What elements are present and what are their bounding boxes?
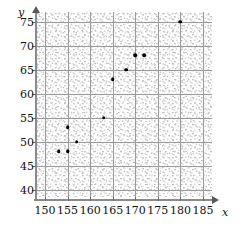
y-tick-label: 40 bbox=[20, 184, 34, 195]
x-tick-label: 165 bbox=[102, 205, 123, 216]
data-point bbox=[133, 53, 137, 57]
x-tick-160 bbox=[90, 197, 91, 201]
x-axis-arrow-icon bbox=[212, 196, 219, 204]
data-point bbox=[143, 53, 147, 57]
y-axis-arrow-icon bbox=[32, 6, 40, 13]
x-axis-line bbox=[34, 199, 214, 201]
y-tick-label: 45 bbox=[20, 160, 34, 171]
y-tick-label: 70 bbox=[20, 40, 34, 51]
gridline-x-180 bbox=[180, 12, 181, 197]
y-axis-label: y bbox=[18, 6, 24, 19]
speckle-texture bbox=[36, 12, 212, 197]
data-point bbox=[111, 77, 115, 81]
y-tick-label: 65 bbox=[20, 64, 34, 75]
data-point bbox=[57, 150, 61, 154]
gridline-y-60 bbox=[36, 94, 212, 95]
x-tick-label: 170 bbox=[125, 205, 146, 216]
data-point bbox=[66, 126, 70, 130]
y-tick-label: 50 bbox=[20, 136, 34, 147]
data-point bbox=[179, 20, 183, 24]
data-point bbox=[66, 150, 70, 154]
x-tick-170 bbox=[135, 197, 136, 201]
data-point bbox=[124, 68, 128, 72]
gridline-x-185 bbox=[203, 12, 204, 197]
gridline-x-150 bbox=[45, 12, 46, 197]
plot-area bbox=[36, 12, 212, 197]
y-tick-label: 60 bbox=[20, 88, 34, 99]
y-tick-label: 55 bbox=[20, 112, 34, 123]
x-tick-165 bbox=[113, 197, 114, 201]
gridline-y-75 bbox=[36, 22, 212, 23]
gridline-y-45 bbox=[36, 166, 212, 167]
x-tick-label: 175 bbox=[147, 205, 168, 216]
x-tick-label: 155 bbox=[57, 205, 78, 216]
data-point bbox=[102, 116, 106, 120]
gridline-y-55 bbox=[36, 118, 212, 119]
x-tick-185 bbox=[203, 197, 204, 201]
x-tick-label: 160 bbox=[80, 205, 101, 216]
scatter-plot-figure: 150155160165170175180185 404550556065707… bbox=[0, 0, 242, 233]
gridline-y-70 bbox=[36, 46, 212, 47]
x-tick-180 bbox=[180, 197, 181, 201]
x-axis-label: x bbox=[222, 206, 228, 219]
gridline-x-170 bbox=[135, 12, 136, 197]
gridline-x-160 bbox=[90, 12, 91, 197]
gridline-y-40 bbox=[36, 190, 212, 191]
gridline-y-50 bbox=[36, 142, 212, 143]
gridline-x-175 bbox=[158, 12, 159, 197]
x-tick-label: 185 bbox=[192, 205, 213, 216]
gridline-x-165 bbox=[113, 12, 114, 197]
x-tick-label: 180 bbox=[170, 205, 191, 216]
x-tick-label: 150 bbox=[35, 205, 56, 216]
y-axis-line bbox=[35, 12, 37, 200]
x-tick-155 bbox=[68, 197, 69, 201]
x-tick-150 bbox=[45, 197, 46, 201]
x-tick-175 bbox=[158, 197, 159, 201]
gridline-x-155 bbox=[68, 12, 69, 197]
data-point bbox=[75, 140, 79, 144]
